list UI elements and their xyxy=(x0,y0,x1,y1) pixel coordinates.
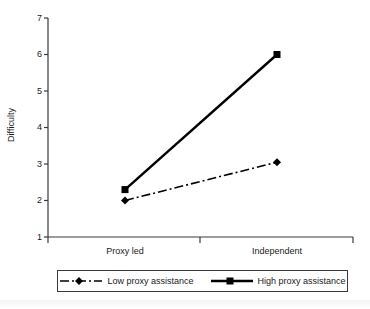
plot-area xyxy=(0,0,370,309)
legend-entry-low-proxy-assistance[interactable]: Low proxy assistance xyxy=(59,275,193,287)
series-high-proxy-assistance xyxy=(122,51,281,193)
diamond-marker xyxy=(75,277,83,285)
line-chart: Difficulty 7 6 5 4 3 2 1 Proxy led Indep… xyxy=(0,0,370,309)
series-low-proxy-assistance xyxy=(121,158,281,204)
legend-entry-high-proxy-assistance[interactable]: High proxy assistance xyxy=(210,275,346,287)
dash-dot-line-swatch xyxy=(59,275,103,287)
scan-artifact xyxy=(0,300,370,309)
square-marker xyxy=(226,278,233,285)
diamond-marker-low-independent xyxy=(273,158,281,166)
chart-legend: Low proxy assistance High proxy assistan… xyxy=(57,270,348,292)
square-marker-high-independent xyxy=(274,51,281,58)
square-marker-high-proxy-led xyxy=(122,186,129,193)
legend-label-high-proxy-assistance: High proxy assistance xyxy=(258,276,346,286)
solid-line-swatch xyxy=(210,275,254,287)
series-high-proxy-assistance-line xyxy=(125,55,277,190)
legend-label-low-proxy-assistance: Low proxy assistance xyxy=(107,276,193,286)
x-axis-ticks xyxy=(48,237,353,243)
diamond-marker-low-proxy-led xyxy=(121,197,129,205)
